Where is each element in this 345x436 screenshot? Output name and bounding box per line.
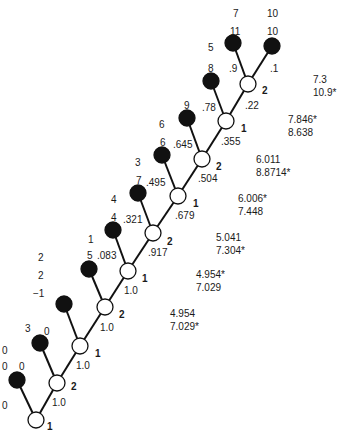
payoff-label: 2: [38, 270, 44, 281]
terminal-node: [264, 38, 280, 54]
payoff-label: −1: [33, 288, 44, 299]
terminal-node: [81, 261, 97, 277]
terminal-node: [105, 222, 121, 238]
score-pair: 7.846* 8.638: [288, 113, 317, 139]
player-label: 1: [241, 123, 247, 134]
payoff-label: 5: [87, 250, 93, 261]
decision-node: [170, 188, 186, 204]
payoff-label: 3: [135, 157, 141, 168]
score-line: 5.041: [216, 231, 245, 244]
player-label: 2: [167, 236, 173, 247]
prob-label: 0: [2, 400, 8, 411]
prob-label: .645: [173, 139, 192, 150]
score-pair: 6.006* 7.448: [238, 192, 267, 218]
score-line: 7.029: [196, 281, 225, 294]
player-label: 2: [71, 381, 77, 392]
continue-prob: .917: [148, 247, 167, 258]
decision-node: [28, 412, 44, 428]
score-pair: 4.954 7.029*: [170, 307, 199, 333]
payoff-label: 5: [208, 42, 214, 53]
continue-prob: .504: [198, 173, 217, 184]
payoff-label: 10: [267, 8, 278, 19]
score-line: 7.3: [313, 73, 336, 86]
score-pair: 5.041 7.304*: [216, 231, 245, 257]
player-label: 1: [95, 348, 101, 359]
payoff-label: 6: [159, 119, 165, 130]
score-line: 4.954*: [196, 268, 225, 281]
terminal-node: [56, 296, 72, 312]
prob-label: .495: [146, 177, 165, 188]
decision-node: [120, 263, 136, 279]
payoff-label: 6: [160, 137, 166, 148]
payoff-label: 2: [38, 252, 44, 263]
payoff-label: 0: [2, 361, 8, 372]
player-label: 1: [47, 421, 53, 432]
player-label: 2: [119, 309, 125, 320]
score-pair: 6.011 8.8714*: [256, 153, 290, 179]
payoff-label: 1: [88, 234, 94, 245]
terminal-node: [32, 335, 48, 351]
terminal-node: [225, 35, 241, 51]
score-line: 6.006*: [238, 192, 267, 205]
terminal-node: [179, 110, 195, 126]
terminal-node: [203, 73, 219, 89]
prob-label: .1: [270, 63, 278, 74]
payoff-label: 8: [208, 63, 214, 74]
score-line: 7.846*: [288, 113, 317, 126]
prob-label: .78: [202, 102, 216, 113]
decision-node: [145, 225, 161, 241]
decision-node: [97, 299, 113, 315]
player-label: 2: [262, 85, 268, 96]
prob-label: 0: [19, 361, 25, 372]
payoff-label: 10: [267, 26, 278, 37]
continue-prob: .679: [175, 210, 194, 221]
player-label: 1: [193, 198, 199, 209]
continue-prob: 1.0: [52, 397, 66, 408]
payoff-label: 4: [111, 212, 117, 223]
prob-label: .083: [97, 250, 116, 261]
player-label: 1: [142, 273, 148, 284]
payoff-label: 3: [25, 323, 31, 334]
payoff-label: 7: [136, 175, 142, 186]
score-line: 7.304*: [216, 244, 245, 257]
prob-label: .9: [229, 63, 237, 74]
payoff-label: 9: [184, 100, 190, 111]
score-pair: 4.954* 7.029: [196, 268, 225, 294]
terminal-node: [9, 372, 25, 388]
payoff-label: 0: [2, 345, 8, 356]
score-pair: 7.3 10.9*: [313, 73, 336, 99]
player-label: 2: [216, 161, 222, 172]
terminal-node: [130, 185, 146, 201]
prob-label: 0: [44, 326, 50, 337]
terminal-node: [154, 147, 170, 163]
continue-prob: .355: [221, 136, 240, 147]
decision-node: [49, 375, 65, 391]
continue-prob: 1.0: [100, 322, 114, 333]
score-line: 7.029*: [170, 320, 199, 333]
score-line: 10.9*: [313, 86, 336, 99]
decision-node: [194, 151, 210, 167]
continue-prob: 1.0: [124, 285, 138, 296]
decision-node: [72, 338, 88, 354]
score-line: 7.448: [238, 205, 267, 218]
score-line: 8.8714*: [256, 166, 290, 179]
payoff-label: 7: [233, 8, 239, 19]
score-line: 8.638: [288, 126, 317, 139]
game-tree: [0, 0, 345, 436]
score-line: 4.954: [170, 307, 199, 320]
payoff-label: 11: [230, 26, 240, 37]
score-line: 6.011: [256, 153, 290, 166]
decision-node: [218, 113, 234, 129]
continue-prob: .22: [245, 100, 259, 111]
continue-prob: 1.0: [76, 360, 90, 371]
decision-node: [240, 76, 256, 92]
prob-label: .321: [123, 214, 142, 225]
payoff-label: 4: [111, 194, 117, 205]
